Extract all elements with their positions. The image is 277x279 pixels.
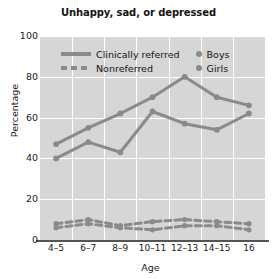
y-axis-tick-label: 60 <box>6 112 38 123</box>
data-point-marker <box>246 111 252 117</box>
data-point-marker <box>246 102 252 108</box>
data-point-marker <box>214 94 220 100</box>
chart-legend: Clinically referred Nonreferred Boys Gir… <box>61 48 230 74</box>
legend-label: Girls <box>207 63 229 74</box>
data-point-marker <box>53 141 59 147</box>
y-axis-tick-label: 20 <box>6 193 38 204</box>
legend-column-style: Clinically referred Nonreferred <box>61 48 180 74</box>
data-point-marker <box>246 227 251 232</box>
dot-marker-icon <box>196 51 202 57</box>
legend-item-boys: Boys <box>193 48 230 60</box>
data-point-marker <box>85 139 91 145</box>
data-point-marker <box>150 219 155 224</box>
data-point-marker <box>182 217 187 222</box>
legend-item-girls: Girls <box>193 62 230 74</box>
legend-label: Clinically referred <box>96 49 180 60</box>
legend-item-clinically-referred: Clinically referred <box>61 48 180 60</box>
series-line <box>56 111 249 158</box>
data-point-marker <box>182 121 188 127</box>
data-point-marker <box>150 227 155 232</box>
data-point-marker <box>117 149 123 155</box>
data-point-marker <box>214 127 220 133</box>
data-point-marker <box>182 223 187 228</box>
data-point-marker <box>118 225 123 230</box>
x-axis-label: Age <box>36 262 265 273</box>
data-point-marker <box>85 125 91 131</box>
legend-column-sex: Boys Girls <box>193 48 230 74</box>
y-axis-tick-label: 100 <box>6 30 38 41</box>
data-point-marker <box>246 221 251 226</box>
data-point-marker <box>182 74 188 80</box>
y-axis-tick-label: 80 <box>6 71 38 82</box>
chart-container: Unhappy, sad, or depressed Percentage Cl… <box>0 0 277 279</box>
data-point-marker <box>214 223 219 228</box>
data-point-marker <box>53 225 58 230</box>
dashed-line-icon <box>61 66 91 70</box>
data-point-marker <box>86 221 91 226</box>
chart-title: Unhappy, sad, or depressed <box>0 7 277 18</box>
x-axis-tick-label: 16 <box>229 243 269 253</box>
legend-label: Nonreferred <box>96 63 153 74</box>
data-point-marker <box>117 111 123 117</box>
data-point-marker <box>150 94 156 100</box>
dot-marker-icon <box>196 65 202 71</box>
data-point-marker <box>150 109 156 115</box>
y-axis-tick-label: 40 <box>6 152 38 163</box>
data-point-marker <box>53 156 59 162</box>
solid-line-icon <box>61 52 91 56</box>
y-axis-tick-label: 0 <box>6 234 38 245</box>
x-axis-line <box>36 240 269 242</box>
legend-label: Boys <box>207 49 230 60</box>
legend-item-nonreferred: Nonreferred <box>61 62 180 74</box>
